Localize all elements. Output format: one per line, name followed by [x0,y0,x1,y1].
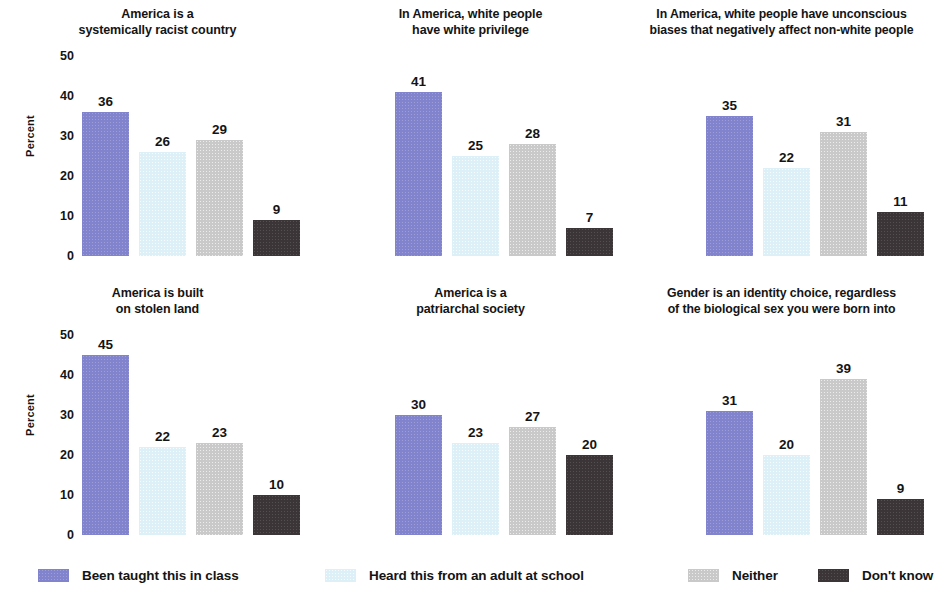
bar-value-label: 27 [495,410,570,424]
y-tick: 40 [28,369,74,381]
bar-neither[interactable] [196,443,243,535]
bar-group: 41 25 28 7 [395,56,613,256]
bar-heard[interactable] [763,455,810,535]
y-tick: 30 [28,130,74,142]
legend-label: Been taught this in class [82,568,239,583]
bar-slot: 22 [139,335,186,535]
plot-area: 36 26 29 9 [82,56,300,256]
panel-title: America is a systemically racist country [0,7,315,38]
bar-neither[interactable] [196,140,243,256]
legend-swatch-dontknow [818,569,849,582]
bar-dontknow[interactable] [253,495,300,535]
bar-slot: 25 [452,56,499,256]
bar-heard[interactable] [763,168,810,256]
y-tick: 0 [28,529,74,541]
bar-taught[interactable] [706,411,753,535]
legend-swatch-taught [38,569,69,582]
bar-value-label: 10 [239,478,314,492]
bar-slot: 36 [82,56,129,256]
panel-title: America is built on stolen land [0,286,315,317]
bar-value-label: 20 [749,438,824,452]
bar-heard[interactable] [139,152,186,256]
y-axis: Percent 50 40 30 20 10 0 [18,56,80,258]
y-tick: 10 [28,489,74,501]
bar-slot: 7 [566,56,613,256]
bar-heard[interactable] [452,443,499,535]
plot-area: 41 25 28 7 [395,56,613,256]
bar-slot: 45 [82,335,129,535]
legend-swatch-neither [688,569,719,582]
bar-slot: 26 [139,56,186,256]
legend-label: Neither [732,568,778,583]
bar-group: 30 23 27 20 [395,335,613,535]
bar-slot: 35 [706,56,753,256]
legend-item-heard[interactable]: Heard this from an adult at school [325,568,584,583]
bar-group: 35 22 31 11 [706,56,924,256]
bar-dontknow[interactable] [877,212,924,256]
legend-item-taught[interactable]: Been taught this in class [38,568,239,583]
bar-taught[interactable] [395,415,442,535]
bar-value-label: 31 [806,115,881,129]
bar-heard[interactable] [452,156,499,256]
small-multiples-bar-chart-figure: America is a systemically racist country… [0,0,945,595]
bar-value-label: 20 [552,438,627,452]
y-tick: 10 [28,210,74,222]
y-tick: 20 [28,170,74,182]
y-tick: 30 [28,409,74,421]
chart-panel: America is a patriarchal society 30 23 2… [313,279,628,558]
panel-title: Gender is an identity choice, regardless… [622,286,941,317]
bar-value-label: 29 [182,123,257,137]
bar-taught[interactable] [706,116,753,256]
bar-slot: 20 [763,335,810,535]
bar-slot: 22 [763,56,810,256]
plot-area: 35 22 31 11 [706,56,924,256]
bar-value-label: 25 [438,139,513,153]
bar-value-label: 9 [239,203,314,217]
chart-panel: In America, white people have white priv… [313,0,628,279]
bar-taught[interactable] [82,355,129,535]
bar-dontknow[interactable] [566,228,613,256]
bar-value-label: 45 [68,338,143,352]
y-tick: 0 [28,250,74,262]
chart-panel: In America, white people have unconsciou… [624,0,939,279]
legend-swatch-heard [325,569,356,582]
bar-heard[interactable] [139,447,186,535]
bar-slot: 28 [509,56,556,256]
plot-area: 31 20 39 9 [706,335,924,535]
legend-item-neither[interactable]: Neither [688,568,778,583]
bar-taught[interactable] [82,112,129,256]
bar-group: 31 20 39 9 [706,335,924,535]
bar-slot: 27 [509,335,556,535]
plot-area: 45 22 23 10 [82,335,300,535]
legend-item-dontknow[interactable]: Don't know [818,568,933,583]
bar-dontknow[interactable] [253,220,300,256]
bar-value-label: 30 [381,398,456,412]
bar-value-label: 41 [381,75,456,89]
bar-slot: 31 [820,56,867,256]
bar-slot: 30 [395,335,442,535]
bar-value-label: 31 [692,394,767,408]
bar-value-label: 11 [863,195,938,209]
bar-slot: 41 [395,56,442,256]
chart-panel: America is built on stolen land Percent … [0,279,315,558]
legend-label: Heard this from an adult at school [369,568,584,583]
bar-group: 36 26 29 9 [82,56,300,256]
bar-value-label: 26 [125,135,200,149]
bar-neither[interactable] [509,144,556,256]
bar-neither[interactable] [820,132,867,256]
y-tick: 50 [28,50,74,62]
bar-group: 45 22 23 10 [82,335,300,535]
bar-neither[interactable] [820,379,867,535]
bar-neither[interactable] [509,427,556,535]
bar-value-label: 7 [552,211,627,225]
bar-slot: 11 [877,56,924,256]
bar-dontknow[interactable] [566,455,613,535]
bar-value-label: 35 [692,99,767,113]
bar-slot: 29 [196,56,243,256]
panel-grid: America is a systemically racist country… [0,0,945,558]
panel-title: America is a patriarchal society [313,286,628,317]
bar-taught[interactable] [395,92,442,256]
chart-panel: America is a systemically racist country… [0,0,315,279]
bar-dontknow[interactable] [877,499,924,535]
chart-panel: Gender is an identity choice, regardless… [624,279,939,558]
